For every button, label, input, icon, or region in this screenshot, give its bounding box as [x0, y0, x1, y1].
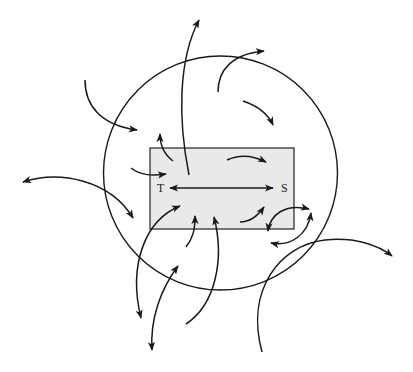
field-diagram: T S [0, 0, 413, 372]
arrow-inner-right [243, 101, 273, 125]
label-S: S [281, 181, 288, 195]
arrow-upper-left [85, 80, 137, 130]
arrow-lower-right-long [258, 239, 392, 352]
arrow-bottom-double [152, 266, 178, 350]
arrow-bottom-into-box [186, 217, 218, 324]
arrow-left-double [23, 177, 133, 218]
label-T: T [157, 181, 165, 195]
arrow-top-right [218, 51, 264, 92]
